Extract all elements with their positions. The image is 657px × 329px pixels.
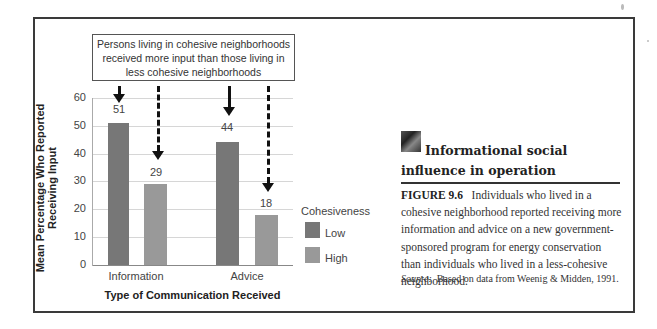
- arrowhead-icon: [223, 107, 235, 116]
- bar-advice-high: [255, 215, 278, 265]
- arrowhead-icon: [113, 94, 125, 103]
- x-axis-line: [92, 265, 293, 266]
- bar-advice-low: [216, 142, 239, 265]
- value-label: 51: [104, 103, 134, 115]
- legend-label-high: High: [325, 252, 348, 264]
- source-label: Source:: [401, 273, 432, 284]
- value-label: 18: [251, 197, 281, 209]
- scan-artifact: [621, 4, 624, 10]
- y-tick: 60: [66, 91, 86, 103]
- figure-number: FIGURE 9.6: [401, 189, 463, 201]
- dashed-arrow-icon: [157, 86, 160, 151]
- y-axis-title: Mean Percentage Who Reported Receiving I…: [34, 78, 58, 298]
- value-label: 44: [212, 121, 242, 133]
- y-tick: 40: [66, 147, 86, 159]
- legend-swatch-high: [305, 247, 320, 263]
- x-category-label: Information: [96, 270, 176, 282]
- legend-label-low: Low: [325, 227, 345, 239]
- y-tick: 0: [66, 258, 86, 270]
- y-tick: 30: [66, 174, 86, 186]
- legend-title: Cohesiveness: [301, 205, 370, 217]
- value-label: 29: [141, 166, 171, 178]
- bar-information-low: [108, 123, 129, 265]
- arrowhead-icon: [152, 151, 164, 160]
- y-axis-line: [92, 98, 93, 266]
- y-tick: 20: [66, 202, 86, 214]
- legend-swatch-low: [305, 222, 320, 238]
- y-tick: 50: [66, 119, 86, 131]
- source-text: Based on data from Weenig & Midden, 1991…: [437, 273, 619, 284]
- bar-information-high: [144, 184, 167, 265]
- panel-title: Informational social influence in operat…: [401, 141, 621, 181]
- dashed-arrow-icon: [267, 86, 270, 183]
- arrowhead-icon: [262, 183, 274, 192]
- scan-artifact: [647, 40, 649, 42]
- callout-box: Persons living in cohesive neighborhoods…: [92, 34, 295, 81]
- x-category-label: Advice: [207, 270, 287, 282]
- x-axis-title: Type of Communication Received: [92, 289, 293, 301]
- source-note: Source: Based on data from Weenig & Midd…: [401, 273, 631, 284]
- divider: [401, 182, 620, 184]
- solid-arrow-icon: [228, 86, 231, 108]
- y-tick: 10: [66, 230, 86, 242]
